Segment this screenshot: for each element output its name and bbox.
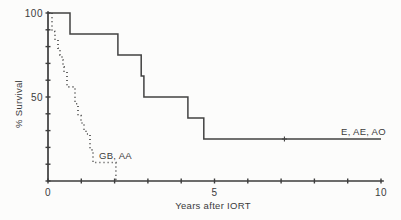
x-tick-label: 10 — [375, 187, 387, 198]
survival-figure: % Survival Years after IORT GB, AA E, AE… — [0, 0, 401, 220]
y-tick-label: 50 — [31, 92, 43, 103]
y-axis-title: % Survival — [13, 80, 24, 128]
x-tick-label: 5 — [211, 187, 217, 198]
x-tick-label: 0 — [45, 187, 51, 198]
curve-label-gb-aa: GB, AA — [99, 150, 132, 161]
censor-mark — [282, 137, 287, 142]
y-tick-label: 100 — [25, 8, 43, 19]
survival-chart-canvas: % Survival Years after IORT GB, AA E, AE… — [0, 0, 401, 220]
survival-curve-e-ae-ao — [48, 13, 381, 139]
x-axis-title: Years after IORT — [175, 200, 251, 211]
curve-label-e-ae-ao: E, AE, AO — [341, 126, 386, 137]
